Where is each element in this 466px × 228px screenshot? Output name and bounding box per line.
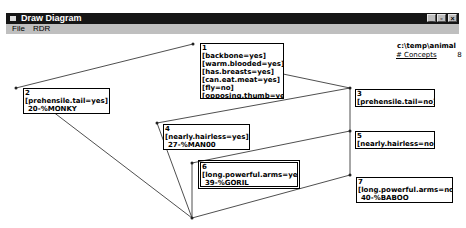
node-point-3[interactable] [349, 87, 352, 90]
node-point-1[interactable] [192, 43, 195, 46]
node-point-2[interactable] [15, 87, 18, 90]
node-condition: [backbone=yes] [202, 52, 282, 60]
edge-1-2 [16, 44, 193, 88]
node-id: 2 [25, 89, 108, 97]
node-condition: [long.powerful.arms=yes] [202, 171, 296, 179]
node-id: 5 [357, 132, 433, 140]
node-conclusion: 39-%GORIL [202, 179, 296, 187]
node-4[interactable]: 4 [nearly.hairless=yes] 27-%MAN00 [163, 124, 250, 150]
node-3[interactable]: 3 [prehensile.tail=no] [355, 89, 435, 107]
node-id: 3 [357, 90, 433, 98]
node-5[interactable]: 5 [nearly.hairless=no] [355, 131, 435, 149]
node-condition: [warm.blooded=yes] [202, 60, 282, 68]
node-condition: [prehensile.tail=no] [357, 98, 433, 106]
node-conclusion: 40-%BABOO [358, 194, 451, 202]
node-id: 4 [165, 125, 248, 133]
node-point-5[interactable] [349, 130, 352, 133]
node-id: 6 [202, 163, 296, 171]
node-condition: [nearly.hairless=no] [357, 140, 433, 148]
node-condition: [prehensile.tail=yes] [25, 97, 108, 105]
end-point [191, 217, 194, 220]
node-point-6[interactable] [191, 162, 194, 165]
node-id: 7 [358, 178, 451, 186]
node-conclusion: 20-%MONKY [25, 105, 108, 113]
node-point-4[interactable] [156, 122, 159, 125]
node-condition: [opposing.thumb=yes [202, 92, 282, 99]
node-id: 1 [202, 44, 282, 52]
node-condition: [long.powerful.arms=no] [358, 186, 451, 194]
node-1[interactable]: 1 [backbone=yes] [warm.blooded=yes] [has… [200, 43, 284, 99]
node-condition: [has.breasts=yes] [202, 68, 282, 76]
node-conclusion: 27-%MAN00 [165, 141, 248, 149]
node-condition: [can.eat.meat=yes] [202, 76, 282, 84]
node-7[interactable]: 7 [long.powerful.arms=no] 40-%BABOO [356, 177, 453, 203]
node-condition: [fly=no] [202, 84, 282, 92]
node-point-7[interactable] [349, 174, 352, 177]
node-2[interactable]: 2 [prehensile.tail=yes] 20-%MONKY [23, 88, 110, 114]
node-6[interactable]: 6 [long.powerful.arms=yes] 39-%GORIL [200, 162, 298, 187]
node-condition: [nearly.hairless=yes] [165, 133, 248, 141]
